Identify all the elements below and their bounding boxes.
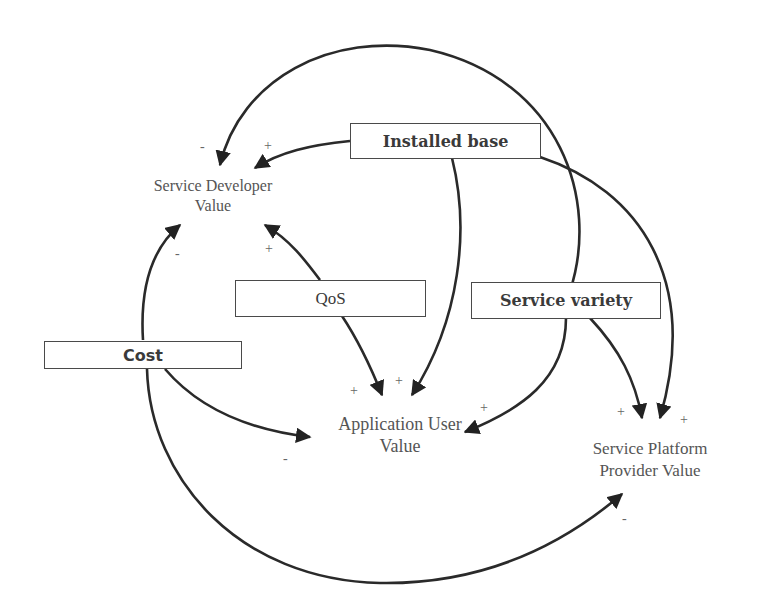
edge-cost-to-auv: [165, 369, 310, 437]
sign-sdv-installed-base: +: [264, 139, 272, 153]
installed-base-box: Installed base: [350, 123, 541, 159]
cost-box: Cost: [44, 341, 242, 369]
edge-service-variety-to-sdv: [220, 46, 579, 291]
auv-line-2: Value: [305, 435, 495, 457]
edge-qos-to-sdv: [265, 225, 320, 280]
sign-auv-loop: +: [480, 401, 488, 415]
sign-sdv-cost: -: [175, 247, 180, 261]
service-platform-provider-value-node: Service Platform Provider Value: [560, 438, 740, 482]
sign-sppv-cost: -: [622, 512, 627, 526]
sppv-line-2: Provider Value: [560, 460, 740, 482]
edge-installed-base-to-auv: [412, 158, 460, 395]
service-developer-value-node: Service Developer Value: [118, 176, 308, 216]
service-variety-box: Service variety: [471, 282, 661, 319]
sppv-line-1: Service Platform: [560, 438, 740, 460]
sign-sppv-installed-base: +: [680, 413, 688, 427]
edge-service-variety-to-sppv: [590, 318, 642, 418]
sdv-line-2: Value: [118, 196, 308, 216]
edge-cost-to-sppv: [147, 369, 622, 583]
edge-qos-to-auv: [342, 316, 382, 395]
sign-sdv-qos: +: [265, 242, 273, 256]
qos-box: QoS: [235, 280, 426, 317]
application-user-value-node: Application User Value: [305, 413, 495, 457]
auv-line-1: Application User: [305, 413, 495, 435]
sign-sdv-loop: -: [200, 140, 205, 154]
edge-cost-to-sdv: [142, 225, 180, 340]
sign-sppv-service-variety: +: [617, 405, 625, 419]
sign-auv-cost: -: [283, 452, 288, 466]
sign-auv-installed-base: +: [395, 374, 403, 388]
sign-auv-qos: +: [350, 384, 358, 398]
sdv-line-1: Service Developer: [118, 176, 308, 196]
